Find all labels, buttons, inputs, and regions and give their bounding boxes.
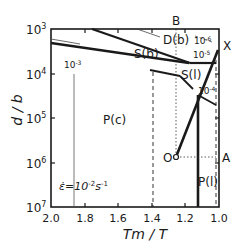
x-axis-label: Tm / T — [123, 226, 169, 242]
x-tick-labels: 2.0 1.8 1.6 1.4 1.2 1.0 — [42, 212, 228, 225]
region-label-sb: S(b) — [134, 47, 159, 61]
thin-contour-top — [137, 29, 160, 37]
boundary-sl-upper — [150, 70, 180, 76]
point-label-a: A — [222, 151, 231, 165]
point-label-x: X — [223, 39, 231, 53]
deformation-map: 103 104 105 106 107 d / b 2.0 1.8 1.6 1.… — [0, 0, 242, 249]
svg-text:104: 104 — [26, 67, 46, 82]
svg-text:1.0: 1.0 — [210, 212, 228, 225]
svg-text:106: 106 — [26, 156, 46, 171]
region-label-pc: P(c) — [103, 113, 126, 127]
point-label-b: B — [172, 14, 180, 28]
svg-text:1.4: 1.4 — [143, 212, 161, 225]
contour-label-1e-4: 10-4 — [198, 85, 216, 96]
y-tick-labels: 103 104 105 106 107 — [26, 22, 46, 215]
region-label-pl: P(l) — [198, 175, 218, 189]
y-axis-ticks — [51, 74, 219, 163]
contour-label-1e-5: 10-5 — [193, 49, 211, 60]
svg-text:1.2: 1.2 — [176, 212, 194, 225]
svg-text:105: 105 — [26, 111, 46, 126]
svg-text:2.0: 2.0 — [42, 212, 60, 225]
contour-label-1e-3: 10-3 — [64, 59, 82, 70]
contour-label-1e-6: 10-6 — [194, 35, 212, 46]
svg-text:1.8: 1.8 — [76, 212, 94, 225]
boundary-pl-top — [198, 95, 216, 105]
region-label-sl: S(l) — [181, 68, 201, 82]
svg-text:1.6: 1.6 — [109, 212, 127, 225]
point-label-o: O — [163, 151, 172, 165]
point-o-marker — [174, 155, 179, 160]
region-label-db: D(b) — [163, 33, 189, 47]
y-axis-label: d / b — [9, 94, 25, 126]
strain-rate-label: ε̇=10-2s-1 — [59, 180, 108, 193]
svg-text:103: 103 — [26, 22, 46, 37]
